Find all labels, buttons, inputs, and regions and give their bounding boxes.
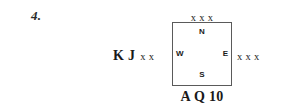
compass-south-label: S: [173, 71, 231, 79]
west-hand-spots: x x: [140, 51, 154, 62]
north-hand-cards: x x x: [191, 12, 214, 23]
south-hand-cards: A Q 10: [180, 89, 223, 104]
compass-north-label: N: [173, 28, 231, 36]
west-hand-honours: K J: [113, 48, 135, 63]
east-hand-cards: x x x: [237, 51, 260, 62]
compass-east-label: E: [223, 50, 228, 58]
compass-box: N W E S: [172, 22, 232, 86]
south-hand: A Q 10: [170, 87, 234, 105]
compass-west-label: W: [176, 50, 184, 58]
bridge-hand-diagram: 4. x x x K Jx x x x x A Q 10 N W E S: [0, 0, 286, 111]
problem-number: 4.: [31, 9, 41, 23]
east-hand: x x x: [237, 46, 260, 64]
west-hand: K Jx x: [113, 46, 154, 64]
